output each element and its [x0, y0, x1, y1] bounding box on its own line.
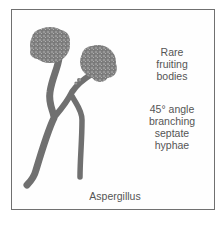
fruiting-body-left: [30, 27, 70, 63]
annotation-line: Rare: [140, 46, 204, 58]
annotation-line: branching: [136, 115, 208, 127]
annotation-line: fruiting: [140, 58, 204, 70]
annotation-line: bodies: [140, 70, 204, 82]
annotation-line: hyphae: [136, 139, 208, 151]
annotation-line: 45° angle: [136, 103, 208, 115]
annotation-fruiting-bodies: Rare fruiting bodies: [140, 46, 204, 82]
annotation-branching-hyphae: 45° angle branching septate hyphae: [136, 103, 208, 151]
hyphae: [27, 58, 92, 185]
figure-caption: Aspergillus: [70, 190, 160, 202]
annotation-line: septate: [136, 127, 208, 139]
